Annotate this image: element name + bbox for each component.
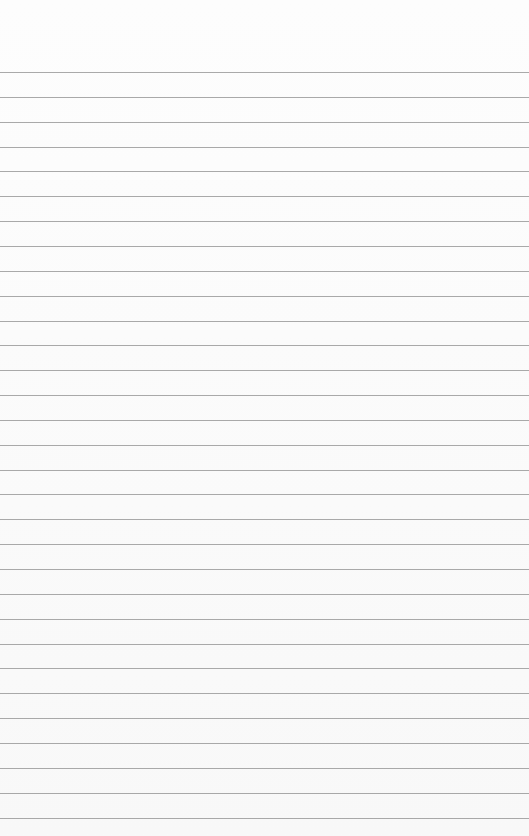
ruled-line xyxy=(0,72,529,73)
ruled-line xyxy=(0,370,529,371)
ruled-line xyxy=(0,494,529,495)
ruled-line xyxy=(0,221,529,222)
ruled-line xyxy=(0,420,529,421)
ruled-line xyxy=(0,470,529,471)
ruled-line xyxy=(0,743,529,744)
ruled-line xyxy=(0,395,529,396)
ruled-line xyxy=(0,569,529,570)
ruled-line xyxy=(0,171,529,172)
ruled-line xyxy=(0,693,529,694)
ruled-line xyxy=(0,345,529,346)
ruled-line xyxy=(0,768,529,769)
ruled-line xyxy=(0,445,529,446)
lined-paper-sheet xyxy=(0,0,529,836)
ruled-line xyxy=(0,619,529,620)
ruled-line xyxy=(0,544,529,545)
ruled-line xyxy=(0,668,529,669)
ruled-line xyxy=(0,594,529,595)
ruled-line xyxy=(0,296,529,297)
ruled-line xyxy=(0,271,529,272)
ruled-line xyxy=(0,122,529,123)
ruled-line xyxy=(0,147,529,148)
ruled-line xyxy=(0,718,529,719)
ruled-line xyxy=(0,818,529,819)
ruled-line xyxy=(0,196,529,197)
ruled-line xyxy=(0,97,529,98)
ruled-line xyxy=(0,519,529,520)
ruled-line xyxy=(0,321,529,322)
ruled-line xyxy=(0,793,529,794)
ruled-line xyxy=(0,246,529,247)
ruled-line xyxy=(0,644,529,645)
